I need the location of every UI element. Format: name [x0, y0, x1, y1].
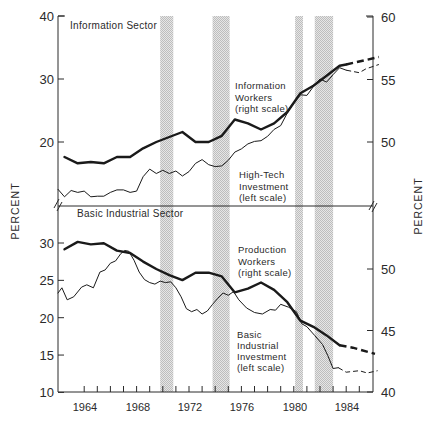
annotation-line: (right scale) [235, 103, 289, 114]
annotation-line: Workers [238, 256, 275, 267]
production-workers-annotation: Production Workers (right scale) [238, 244, 292, 278]
tick-label: 60 [381, 10, 395, 25]
year-label: 1972 [178, 401, 202, 413]
recession-band [160, 16, 173, 392]
year-label: 1980 [283, 401, 307, 413]
year-label: 1984 [335, 401, 359, 413]
tick-label: 10 [40, 385, 54, 400]
recession-band [295, 16, 303, 392]
tick-label: 30 [40, 72, 54, 87]
annotation-line: (left scale) [239, 192, 286, 203]
dual-panel-line-chart: 40 30 20 60 55 50 30 25 20 15 10 50 45 4… [0, 0, 434, 422]
annotation-line: Production [238, 244, 286, 255]
information-workers-projection-line [346, 57, 379, 65]
annotation-line: Information [235, 80, 286, 91]
top-right-tick-labels: 60 55 50 [381, 10, 395, 150]
year-label: 1976 [230, 401, 254, 413]
tick-label: 20 [40, 311, 54, 326]
bottom-right-tick-labels: 50 45 40 [381, 262, 395, 400]
x-tick-labels: 1964 1968 1972 1976 1980 1984 [73, 401, 359, 413]
annotation-line: Workers [235, 92, 272, 103]
top-panel-title: Information Sector [70, 20, 157, 31]
tick-label: 25 [40, 273, 54, 288]
annotation-line: (right scale) [238, 267, 292, 278]
production-workers-projection-line [340, 345, 375, 354]
bottom-panel-title: Basic Industrial Sector [77, 208, 184, 219]
high-tech-investment-projection-line [346, 65, 379, 73]
tick-label: 55 [381, 73, 395, 88]
tick-label: 50 [381, 262, 395, 277]
bottom-left-tick-labels: 30 25 20 15 10 [40, 236, 54, 400]
year-label: 1968 [126, 401, 150, 413]
tick-label: 30 [40, 236, 54, 251]
annotation-line: Basic [237, 329, 262, 340]
annotation-line: Industrial [237, 340, 279, 351]
tick-label: 50 [381, 135, 395, 150]
tick-label: 40 [40, 9, 54, 24]
high-tech-investment-line [58, 68, 346, 197]
right-y-axis-label: PERCENT [412, 177, 424, 234]
year-label: 1964 [73, 401, 97, 413]
info-workers-annotation: Information Workers (right scale) [235, 80, 289, 114]
tick-label: 40 [381, 385, 395, 400]
tick-label: 20 [40, 135, 54, 150]
annotation-line: High-Tech [239, 169, 284, 180]
annotation-line: Investment [239, 181, 289, 192]
tick-label: 45 [381, 324, 395, 339]
left-y-axis-label: PERCENT [9, 182, 21, 239]
recession-band [213, 16, 230, 392]
basic-industrial-investment-projection-line [338, 368, 377, 373]
information-workers-line [65, 65, 347, 164]
tick-label: 15 [40, 348, 54, 363]
top-left-tick-labels: 40 30 20 [40, 9, 54, 150]
annotation-line: (left scale) [237, 362, 284, 373]
annotation-line: Investment [237, 351, 287, 362]
hightech-annotation: High-Tech Investment (left scale) [239, 169, 289, 203]
basic-investment-annotation: Basic Industrial Investment (left scale) [237, 329, 287, 373]
